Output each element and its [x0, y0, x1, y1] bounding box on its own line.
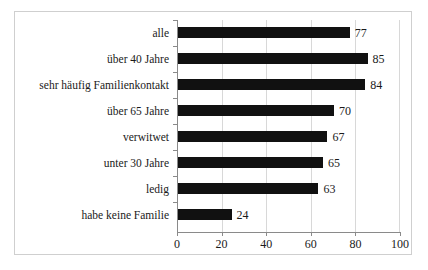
category-label: alle	[0, 20, 169, 46]
x-axis-tick-label: 60	[291, 237, 331, 252]
bar-row: ledig 63	[0, 176, 428, 202]
x-tick-40	[266, 232, 267, 236]
x-axis-tick-label: 100	[380, 237, 420, 252]
bar-row: über 40 Jahre 85	[0, 46, 428, 72]
x-axis-line	[177, 232, 401, 233]
x-axis-tick-label: 80	[335, 237, 375, 252]
bar-row: über 65 Jahre 70	[0, 98, 428, 124]
bar-value-label: 77	[355, 20, 367, 46]
bar-row: sehr häufig Familienkontakt 84	[0, 72, 428, 98]
bar-row: unter 30 Jahre 65	[0, 150, 428, 176]
bar	[178, 27, 350, 38]
category-label: unter 30 Jahre	[0, 150, 169, 176]
bar	[178, 53, 368, 64]
x-tick-20	[222, 232, 223, 236]
bar-value-label: 85	[373, 46, 385, 72]
x-axis-tick-label: 20	[202, 237, 242, 252]
bar-value-label: 84	[370, 72, 382, 98]
x-tick-80	[355, 232, 356, 236]
bar	[178, 79, 365, 90]
bar-value-label: 67	[332, 124, 344, 150]
bar	[178, 131, 327, 142]
bar-value-label: 63	[323, 176, 335, 202]
category-label: verwitwet	[0, 124, 169, 150]
chart-figure: alle 77 über 40 Jahre 85 sehr häufig Fam…	[0, 0, 428, 270]
bar	[178, 183, 318, 194]
x-tick-0	[177, 232, 178, 236]
category-label: über 40 Jahre	[0, 46, 169, 72]
x-tick-60	[311, 232, 312, 236]
category-label: habe keine Familie	[0, 202, 169, 228]
bar	[178, 209, 232, 220]
x-axis-tick-label: 40	[246, 237, 286, 252]
bar	[178, 157, 323, 168]
bar-value-label: 70	[339, 98, 351, 124]
bar	[178, 105, 334, 116]
bar-row: habe keine Familie 24	[0, 202, 428, 228]
bar-row: alle 77	[0, 20, 428, 46]
bar-row: verwitwet 67	[0, 124, 428, 150]
x-axis-tick-label: 0	[157, 237, 197, 252]
bar-value-label: 24	[237, 202, 249, 228]
x-tick-100	[400, 232, 401, 236]
category-label: sehr häufig Familienkontakt	[0, 72, 169, 98]
category-label: ledig	[0, 176, 169, 202]
bar-value-label: 65	[328, 150, 340, 176]
category-label: über 65 Jahre	[0, 98, 169, 124]
